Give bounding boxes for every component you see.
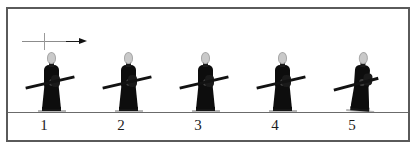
walking-figure-4 xyxy=(260,51,306,113)
walking-figure-3 xyxy=(183,51,229,113)
walking-figure-2 xyxy=(106,51,152,113)
figure-panel: 1 2 3 4 5 xyxy=(0,0,416,151)
figure-number-5: 5 xyxy=(329,115,375,135)
direction-of-travel-arrow-icon xyxy=(22,31,98,51)
figure-head xyxy=(358,52,368,65)
figure-body-group xyxy=(183,51,229,113)
direction-marker-tick xyxy=(44,33,45,50)
figure-number-3: 3 xyxy=(175,115,221,135)
figure-head xyxy=(278,52,287,64)
figure-body-group xyxy=(29,51,75,113)
figure-number-2: 2 xyxy=(98,115,144,135)
walking-figure-1 xyxy=(29,51,75,113)
walking-figure-5 xyxy=(337,51,383,113)
figure-body-group xyxy=(337,50,387,113)
figure-scene xyxy=(8,9,408,113)
figure-head xyxy=(47,52,56,64)
figure-head xyxy=(124,52,133,64)
figure-number-4: 4 xyxy=(252,115,298,135)
figure-head xyxy=(201,52,210,64)
figure-body-group xyxy=(106,51,152,113)
caption-number-strip: 1 2 3 4 5 xyxy=(8,113,408,140)
figure-body-group xyxy=(260,51,306,113)
direction-marker-arrow-head xyxy=(79,38,87,44)
figure-number-1: 1 xyxy=(21,115,67,135)
